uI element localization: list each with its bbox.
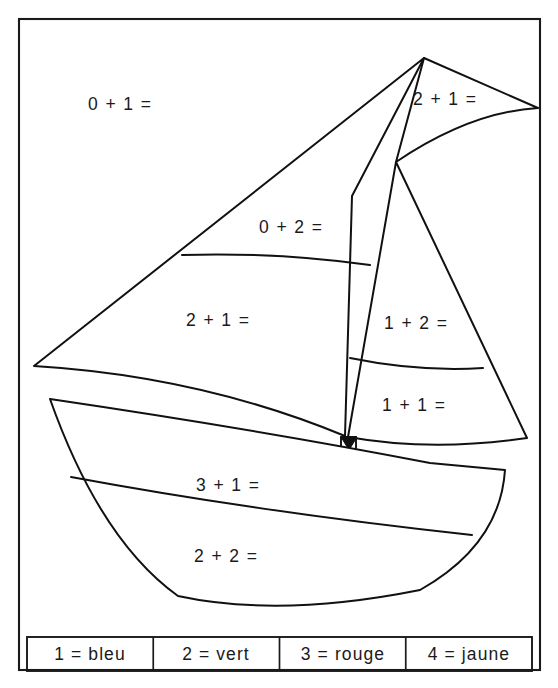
sum-label-jib-lower: 1 + 1 =	[382, 395, 446, 415]
pennant-shape[interactable]	[396, 58, 538, 162]
sum-label-hull-upper: 3 + 1 =	[196, 475, 260, 495]
sum-label-mainsail-upper: 0 + 2 =	[259, 217, 323, 237]
color-key-cell-2[interactable]: 2 = vert	[182, 644, 250, 664]
color-key-cell-1[interactable]: 1 = bleu	[54, 644, 126, 664]
worksheet-page: 0 + 1 = 2 + 1 = 0 + 2 = 2 + 1 = 1 + 2 = …	[0, 0, 558, 688]
sum-label-sky: 0 + 1 =	[88, 94, 152, 114]
sum-label-hull-lower: 2 + 2 =	[194, 546, 258, 566]
sum-label-pennant: 2 + 1 =	[413, 89, 477, 109]
color-key-cell-4[interactable]: 4 = jaune	[428, 644, 510, 664]
sum-label-jib-upper: 1 + 2 =	[384, 313, 448, 333]
color-key-cell-3[interactable]: 3 = rouge	[301, 644, 385, 664]
sailboat-coloring-illustration: 0 + 1 = 2 + 1 = 0 + 2 = 2 + 1 = 1 + 2 = …	[0, 0, 558, 688]
sum-label-mainsail-lower: 2 + 1 =	[186, 310, 250, 330]
